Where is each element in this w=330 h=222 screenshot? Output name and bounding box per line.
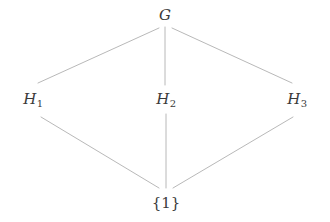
edge-H3-G [172, 28, 292, 83]
edge-1-H3 [173, 117, 293, 188]
node-trivial-subgroup: {1} [152, 195, 181, 211]
edge-1-H1 [41, 117, 159, 188]
node-H3: H3 [287, 91, 306, 107]
node-H1-subscript: 1 [37, 98, 43, 109]
node-H3-symbol: H [287, 90, 300, 108]
diagram-edges [0, 0, 330, 222]
node-H1: H1 [23, 91, 42, 107]
node-H1-symbol: H [23, 90, 36, 108]
node-H2: H2 [156, 91, 175, 107]
node-H3-subscript: 3 [301, 98, 307, 109]
node-trivial-subgroup-symbol: {1} [152, 194, 181, 212]
subgroup-lattice-diagram: G H1 H2 H3 {1} [0, 0, 330, 222]
node-G-symbol: G [159, 6, 171, 24]
node-G: G [159, 7, 171, 23]
node-H2-subscript: 2 [170, 98, 176, 109]
node-H2-symbol: H [156, 90, 169, 108]
edge-H1-G [38, 28, 159, 83]
